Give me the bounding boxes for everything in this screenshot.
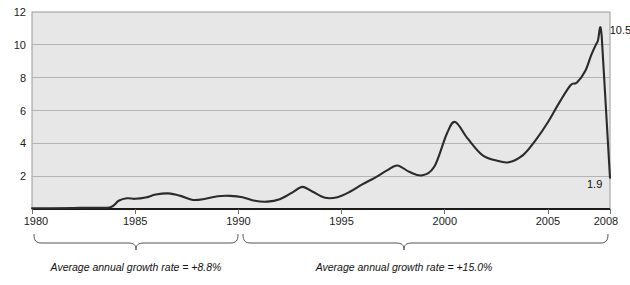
x-tick-1980: 1980 [24,215,48,227]
x-axis-ticks: 1980 1985 1990 1995 2000 2005 2008 [24,215,618,227]
chart-figure: 12 10 8 6 4 2 1980 1985 1990 1995 2000 2… [0,0,630,285]
y-tick-6: 6 [20,105,26,117]
brace-period-2 [243,234,608,250]
line-chart: 12 10 8 6 4 2 1980 1985 1990 1995 2000 2… [0,0,630,285]
x-tick-2005: 2005 [536,215,560,227]
y-axis-ticks: 12 10 8 6 4 2 [14,6,26,182]
y-tick-8: 8 [20,72,26,84]
data-label-endpoint: 1.9 [587,178,602,190]
annotation-growth-rate-period-2: Average annual growth rate = +15.0% [315,261,493,273]
x-tick-1985: 1985 [123,215,147,227]
y-tick-10: 10 [14,39,26,51]
y-tick-12: 12 [14,6,26,18]
x-tick-1995: 1995 [329,215,353,227]
x-tick-1990: 1990 [226,215,250,227]
brace-period-1 [34,234,238,250]
y-tick-4: 4 [20,137,26,149]
x-tick-2008: 2008 [594,215,618,227]
y-tick-2: 2 [20,170,26,182]
x-tick-2000: 2000 [433,215,457,227]
annotation-growth-rate-period-1: Average annual growth rate = +8.8% [50,261,222,273]
data-label-peak: 10.5 [610,24,630,36]
